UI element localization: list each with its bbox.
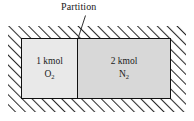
partitioned-tank-figure: Partition 1 kmol O2 xyxy=(0,0,194,121)
chamber-right-amount: 2 kmol xyxy=(111,56,138,67)
chamber-left-species-subscript: 2 xyxy=(51,73,54,80)
chamber-right-species-symbol: N xyxy=(119,69,126,79)
chamber-left: 1 kmol O2 xyxy=(22,39,78,98)
chamber-right-species-subscript: 2 xyxy=(126,73,129,80)
chamber-right-species: N2 xyxy=(119,68,129,81)
chamber-left-amount: 1 kmol xyxy=(36,56,63,67)
partition-callout-label: Partition xyxy=(61,1,96,13)
container-box: 1 kmol O2 2 kmol N2 xyxy=(21,38,171,99)
chamber-left-species: O2 xyxy=(44,68,54,81)
chamber-right: 2 kmol N2 xyxy=(78,39,170,98)
